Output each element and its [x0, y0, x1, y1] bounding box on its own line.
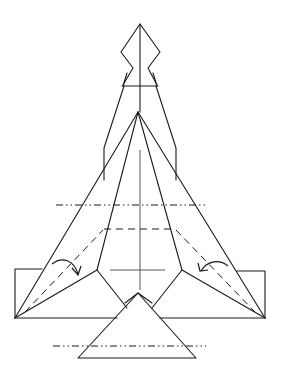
body-left-outer-edge	[104, 86, 124, 180]
origami-diagram	[0, 0, 285, 378]
wing-left-leading-edge	[15, 112, 138, 318]
nose-section	[121, 24, 160, 112]
tail-triangle	[78, 293, 196, 358]
wing-right-leading-edge	[138, 112, 265, 318]
body-right-outer-edge	[156, 86, 176, 180]
fold-arrow-right-icon	[201, 262, 228, 271]
right-flap-fold	[152, 270, 182, 308]
valley-fold-left-diagonal	[25, 230, 103, 312]
center-notch	[125, 293, 152, 303]
fold-arrow-left-icon	[52, 260, 78, 274]
left-flap-fold	[97, 270, 127, 308]
